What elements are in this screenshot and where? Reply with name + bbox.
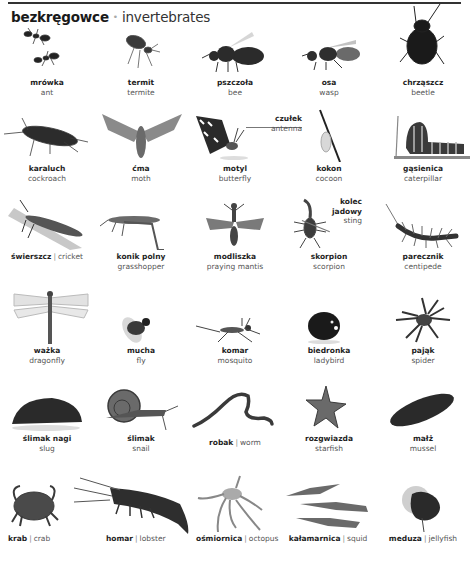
beetle-image	[376, 2, 470, 76]
entry-label: meduza|jellyfish	[376, 534, 470, 544]
entry-label: pszczoła bee	[188, 78, 282, 98]
entry-squid: kałamarnica|squid	[280, 474, 376, 554]
entry-moth: ćma moth	[94, 108, 188, 188]
cocoon-image	[282, 108, 376, 162]
entry-grasshopper: konik polny grasshopper	[94, 196, 188, 266]
entry-label: konik polny grasshopper	[94, 252, 188, 272]
entry-termite: termit termite	[94, 22, 188, 102]
entry-spider: pająk spider	[376, 284, 470, 364]
entry-dragonfly: ważka dragonfly	[0, 284, 94, 364]
entry-wasp: osa wasp	[282, 22, 376, 102]
entry-label: karaluch cockroach	[0, 164, 94, 184]
entry-label: kałamarnica|squid	[280, 534, 376, 544]
entry-label: kokon cocoon	[282, 164, 376, 184]
slug-image	[0, 380, 94, 432]
entry-cocoon: kokon cocoon	[282, 108, 376, 188]
entry-label: biedronka ladybird	[282, 346, 376, 366]
snail-image	[94, 380, 188, 432]
entry-label: modliszka praying mantis	[188, 252, 282, 272]
entry-label: mrówka ant	[0, 78, 94, 98]
squid-image	[280, 474, 376, 534]
mussel-image	[376, 380, 470, 432]
centipede-image	[376, 196, 470, 250]
entry-mussel: małż mussel	[376, 380, 470, 460]
entry-cockroach: karaluch cockroach	[0, 108, 94, 188]
entry-mosquito: komar mosquito	[188, 284, 282, 364]
entry-centipede: parecznik centipede	[376, 196, 470, 266]
entry-label: skorpion scorpion	[282, 252, 376, 272]
spider-image	[376, 284, 470, 346]
entry-label: ćma moth	[94, 164, 188, 184]
entry-cricket: świerszcz|cricket	[0, 196, 94, 266]
entry-snail: ślimak snail	[94, 380, 188, 460]
ladybird-image	[282, 284, 376, 346]
mantis-image	[188, 196, 282, 250]
moth-image	[94, 108, 188, 162]
entry-label: termit termite	[94, 78, 188, 98]
title-bullet: •	[113, 12, 118, 22]
jellyfish-image	[376, 474, 470, 534]
entry-ladybird: biedronka ladybird	[282, 284, 376, 364]
entry-label: robak|worm	[188, 438, 282, 448]
wasp-image	[282, 22, 376, 76]
caterpillar-image	[376, 108, 470, 162]
termite-image	[94, 22, 188, 76]
entry-label: ślimak nagi slug	[0, 434, 94, 454]
grasshopper-image	[94, 196, 188, 250]
bee-image	[188, 22, 282, 76]
entry-label: osa wasp	[282, 78, 376, 98]
cockroach-image	[0, 108, 94, 162]
entry-label: ślimak snail	[94, 434, 188, 454]
mosquito-image	[188, 284, 282, 346]
entry-label: gąsienica caterpillar	[376, 164, 470, 184]
lobster-image	[70, 474, 194, 534]
entry-jellyfish: meduza|jellyfish	[376, 474, 470, 554]
entry-label: pająk spider	[376, 346, 470, 366]
entry-label: małż mussel	[376, 434, 470, 454]
entry-label: ośmiornica|octopus	[196, 534, 276, 544]
entry-label: rozgwiazda starfish	[282, 434, 376, 454]
entry-caterpillar: gąsienica caterpillar	[376, 108, 470, 188]
entry-label: ważka dragonfly	[0, 346, 94, 366]
worm-image	[188, 380, 282, 432]
cricket-image	[0, 196, 94, 250]
ant-image	[0, 22, 94, 76]
dragonfly-image	[0, 284, 94, 346]
starfish-image	[282, 380, 376, 432]
entry-label: świerszcz|cricket	[0, 252, 94, 262]
entry-label: komar mosquito	[188, 346, 282, 366]
entry-label: mucha fly	[94, 346, 188, 366]
entry-starfish: rozgwiazda starfish	[282, 380, 376, 460]
entry-mantis: modliszka praying mantis	[188, 196, 282, 266]
entry-label: motyl butterfly	[188, 164, 282, 184]
entry-octopus: ośmiornica|octopus	[196, 474, 276, 554]
entry-slug: ślimak nagi slug	[0, 380, 94, 460]
entry-label: chrząszcz beetle	[376, 78, 470, 98]
entry-bee: pszczoła bee	[188, 22, 282, 102]
sting-callout: kolec jadowy sting	[322, 197, 362, 226]
entry-lobster: homar|lobster	[70, 474, 194, 554]
octopus-image	[196, 474, 276, 534]
entry-label: parecznik centipede	[376, 252, 470, 272]
fly-image	[94, 284, 188, 346]
entry-fly: mucha fly	[94, 284, 188, 364]
entry-worm: robak|worm	[188, 380, 282, 460]
entry-ant: mrówka ant	[0, 22, 94, 102]
entry-beetle: chrząszcz beetle	[376, 2, 470, 102]
